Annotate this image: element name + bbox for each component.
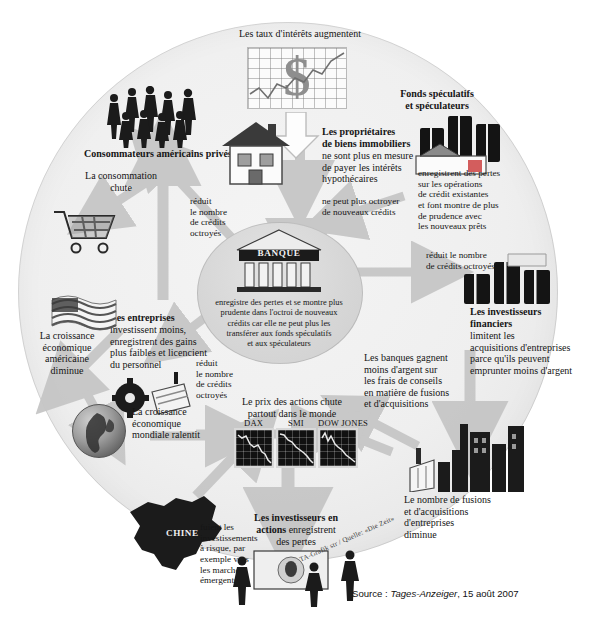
- interest-rates-label: Les taux d'intérêts augmentent: [200, 28, 400, 40]
- companies-title: Les entreprises: [110, 312, 250, 324]
- share-prices-body: Le prix des actions chute partout dans l…: [218, 396, 366, 419]
- city-skyline-icon: [408, 422, 528, 492]
- financial-investors-title-2-row: financiers: [470, 318, 594, 330]
- hedge-funds-title-2: et spéculateurs: [372, 100, 502, 112]
- source-name: Tages-Anzeiger: [390, 588, 457, 599]
- financial-investors-title-1: Les investisseurs: [470, 306, 590, 318]
- share-investors-title-2: actions: [256, 524, 286, 535]
- hedge-funds-body: enregistrent des pertes sur les opératio…: [418, 168, 568, 232]
- consumers-people-icon: [92, 86, 212, 148]
- source-prefix: Source :: [352, 588, 388, 599]
- index-chart-smi: [276, 428, 316, 468]
- bank-fees-body: Les banques gagnent moins d'argent sur l…: [364, 352, 514, 410]
- hedge-funds-coins-and-building-icon: [412, 112, 522, 176]
- investor-coins-icon: [462, 252, 558, 308]
- source-line: Source : Tages-Anzeiger, 15 août 2007: [352, 588, 519, 599]
- us-growth-body: La croissance économique américaine dimi…: [24, 330, 110, 376]
- index-chart-dax: [234, 428, 274, 468]
- interest-rate-chart: $: [247, 47, 347, 109]
- globe-icon: [72, 404, 126, 458]
- share-investors-heading: Les investisseurs en: [218, 512, 374, 524]
- infographic-canvas: Les taux d'intérêts augmentent $ Consomm…: [0, 0, 594, 622]
- companies-body: investissent moins, enregistrent des gai…: [110, 324, 236, 370]
- house-icon: [220, 118, 294, 192]
- index-label-dax: DAX: [244, 418, 263, 428]
- china-label: CHINE: [166, 528, 199, 539]
- share-investors-title-1: Les investisseurs en: [254, 512, 338, 523]
- financial-investors-title-2: financiers: [470, 318, 512, 329]
- index-label-smi: SMI: [288, 418, 304, 428]
- source-date: , 15 août 2007: [457, 588, 518, 599]
- index-label-dow-jones: DOW JONES: [318, 418, 368, 428]
- bank-building-icon: [233, 228, 325, 294]
- bank-label: BANQUE: [233, 248, 325, 259]
- hedge-funds-title-1: Fonds spéculatifs: [372, 88, 502, 100]
- index-chart-dow-jones: [318, 428, 358, 468]
- consumers-body: La consommation chute: [66, 170, 176, 193]
- shopping-cart-icon: [48, 200, 120, 256]
- mergers-body: Le nombre de fusions et d'acquisitions d…: [404, 494, 544, 540]
